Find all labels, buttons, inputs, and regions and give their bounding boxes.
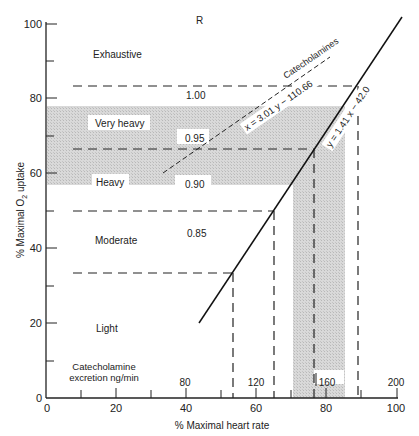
x-tick-labels: 0 20 40 60 80 100 [44, 402, 405, 414]
catecholamine-scale: Catecholamine excretion ng/min [69, 361, 139, 383]
svg-text:0: 0 [36, 392, 42, 404]
svg-text:60: 60 [30, 167, 42, 179]
svg-text:60: 60 [250, 402, 262, 414]
chart-title: R [196, 15, 203, 26]
y-axis-title: % Maximal O2 uptake [15, 161, 28, 258]
svg-text:100: 100 [387, 402, 405, 414]
svg-text:80: 80 [179, 377, 191, 388]
svg-text:80: 80 [30, 92, 42, 104]
svg-text:0.95: 0.95 [185, 133, 205, 144]
shaded-band-vertical [293, 149, 345, 398]
svg-text:40: 40 [30, 242, 42, 254]
svg-text:20: 20 [110, 402, 122, 414]
svg-text:Light: Light [96, 323, 118, 334]
axes [46, 22, 398, 398]
svg-text:excretion ng/min: excretion ng/min [69, 372, 139, 383]
y-tick-labels: 100 80 60 40 20 0 [24, 18, 42, 404]
svg-text:0.90: 0.90 [185, 179, 205, 190]
svg-text:80: 80 [320, 402, 332, 414]
chart: 100 80 60 40 20 0 0 20 40 60 80 100 % Ma… [0, 0, 419, 436]
zone-labels: Exhaustive Very heavy Heavy Moderate Lig… [93, 49, 144, 334]
svg-text:40: 40 [180, 402, 192, 414]
x-ticks [81, 388, 397, 398]
svg-text:Moderate: Moderate [95, 235, 138, 246]
svg-text:100: 100 [24, 18, 42, 30]
svg-text:Heavy: Heavy [96, 177, 124, 188]
svg-text:0.85: 0.85 [187, 228, 207, 239]
svg-text:200: 200 [388, 377, 405, 388]
svg-text:0: 0 [44, 402, 50, 414]
svg-text:20: 20 [30, 317, 42, 329]
svg-text:160: 160 [319, 377, 336, 388]
x-axis-title: % Maximal heart rate [175, 420, 270, 431]
svg-text:120: 120 [248, 377, 265, 388]
svg-text:1.00: 1.00 [186, 90, 206, 101]
svg-text:Catecholamine: Catecholamine [72, 361, 135, 372]
catecholamine-ticks: 80 120 160 200 [179, 377, 404, 388]
y-ticks [46, 24, 57, 361]
svg-text:Very heavy: Very heavy [95, 118, 144, 129]
svg-text:Exhaustive: Exhaustive [93, 49, 142, 60]
